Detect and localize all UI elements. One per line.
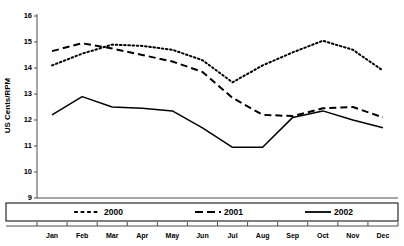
series-line-2001 [52,43,383,117]
line-chart: US Cents/RPM 910111213141516200020012002… [0,0,404,246]
chart-plot-area [0,0,404,246]
series-line-2002 [52,97,383,148]
